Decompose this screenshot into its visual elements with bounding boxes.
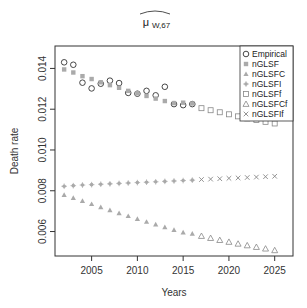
- series-nglsfi: [61, 177, 195, 189]
- x-tick-label: 2025: [264, 265, 287, 276]
- data-point: [71, 70, 75, 74]
- data-point: [135, 91, 139, 95]
- data-point: [62, 67, 66, 71]
- data-point: [107, 181, 113, 187]
- data-point: [107, 208, 112, 213]
- data-point: [71, 195, 76, 200]
- x-axis: 20052010201520202025: [80, 256, 286, 276]
- data-point: [254, 175, 259, 180]
- data-point: [198, 233, 204, 238]
- title-hat: [140, 11, 170, 14]
- data-point: [263, 246, 269, 251]
- data-point: [80, 74, 84, 78]
- x-axis-label: Years: [161, 287, 186, 298]
- data-point: [144, 94, 148, 98]
- data-point: [135, 180, 141, 186]
- y-tick-label: 0.008: [37, 178, 48, 203]
- x-tick-label: 2015: [172, 265, 195, 276]
- series-nglsf: [62, 67, 195, 105]
- chart-title: μ W,67: [140, 11, 171, 30]
- y-tick-label: 0.012: [37, 96, 48, 121]
- legend-marker: [244, 62, 248, 66]
- data-point: [263, 174, 268, 179]
- data-point: [89, 182, 95, 188]
- data-point: [162, 179, 168, 185]
- y-axis-label: Death rate: [9, 127, 20, 174]
- data-point: [116, 211, 121, 216]
- data-point: [217, 110, 222, 115]
- data-point: [153, 179, 159, 185]
- data-point: [125, 180, 131, 186]
- data-point: [71, 62, 77, 68]
- legend: EmpiricalnGLSFnGLSFCnGLSFInGLSFfnGLSFCfn…: [240, 46, 293, 121]
- data-point: [208, 177, 213, 182]
- data-point: [144, 88, 150, 94]
- data-point: [98, 181, 104, 187]
- data-point: [89, 201, 94, 206]
- x-tick-label: 2005: [80, 265, 103, 276]
- data-point: [208, 108, 213, 113]
- data-point: [226, 239, 232, 244]
- y-tick-label: 0.010: [37, 137, 48, 162]
- data-point: [80, 182, 86, 188]
- data-point: [181, 100, 185, 104]
- data-point: [135, 216, 140, 221]
- x-tick-label: 2020: [218, 265, 241, 276]
- data-point: [144, 179, 150, 185]
- data-point: [171, 178, 177, 184]
- legend-label: nGLSFIf: [252, 109, 284, 119]
- data-point: [144, 219, 149, 224]
- legend-label: nGLSFf: [252, 89, 282, 99]
- data-point: [162, 224, 167, 229]
- data-point: [227, 176, 232, 181]
- data-point: [244, 242, 250, 247]
- data-point: [190, 177, 196, 183]
- data-point: [208, 235, 214, 240]
- legend-label: nGLSFCf: [252, 99, 288, 109]
- data-point: [126, 213, 131, 218]
- legend-label: nGLSFC: [252, 69, 285, 79]
- data-point: [153, 222, 158, 227]
- data-point: [98, 204, 103, 209]
- data-point: [272, 121, 277, 126]
- x-tick-label: 2010: [126, 265, 149, 276]
- data-point: [116, 181, 122, 187]
- series-empirical: [61, 60, 195, 108]
- data-point: [272, 174, 277, 179]
- data-point: [108, 83, 112, 87]
- y-tick-label: 0.014: [37, 55, 48, 80]
- data-point: [162, 84, 168, 90]
- data-point: [199, 177, 204, 182]
- data-point: [116, 80, 122, 86]
- data-point: [199, 106, 204, 111]
- data-point: [190, 231, 195, 236]
- y-tick-label: 0.006: [37, 219, 48, 244]
- data-point: [217, 237, 223, 242]
- data-point: [253, 244, 259, 249]
- data-point: [236, 176, 241, 181]
- data-point: [153, 96, 157, 100]
- data-point: [89, 86, 95, 92]
- chart: μ W,67 20052010201520202025 0.0060.0080.…: [0, 0, 307, 308]
- series-nglsfcf: [198, 233, 277, 253]
- data-point: [62, 192, 67, 197]
- data-point: [172, 101, 176, 105]
- data-point: [190, 101, 194, 105]
- title-mu: μ: [143, 16, 149, 28]
- data-point: [181, 230, 186, 235]
- data-point: [117, 86, 121, 90]
- legend-label: nGLSF: [252, 59, 279, 69]
- data-point: [80, 198, 85, 203]
- data-point: [272, 247, 278, 252]
- data-point: [71, 183, 77, 189]
- title-subscript: W,67: [152, 21, 171, 30]
- data-point: [107, 78, 113, 84]
- data-point: [126, 89, 130, 93]
- y-axis: 0.0060.0080.0100.0120.014: [37, 55, 55, 244]
- data-point: [61, 60, 67, 66]
- data-point: [245, 175, 250, 180]
- data-point: [89, 77, 93, 81]
- data-point: [235, 241, 241, 246]
- data-point: [163, 99, 167, 103]
- series-nglsfc: [62, 192, 195, 235]
